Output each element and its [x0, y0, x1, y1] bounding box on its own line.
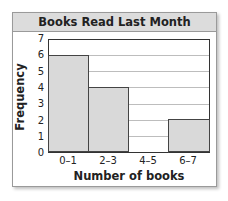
y-tick: 4	[32, 83, 44, 93]
y-tick: 0	[32, 148, 44, 158]
y-axis-label: Frequency	[13, 57, 27, 137]
y-tick: 6	[32, 50, 44, 60]
plot-area	[48, 39, 210, 153]
x-tick: 2–3	[88, 155, 128, 166]
bar-4-5-divider	[168, 120, 169, 153]
bar-6-7	[168, 119, 210, 152]
chart-title: Books Read Last Month	[13, 13, 216, 32]
y-tick: 5	[32, 67, 44, 77]
x-tick: 6–7	[168, 155, 208, 166]
x-axis-label: Number of books	[48, 169, 210, 183]
y-tick: 2	[32, 116, 44, 126]
y-tick: 3	[32, 99, 44, 109]
bar-0-1	[48, 55, 89, 152]
bar-2-3	[88, 87, 129, 152]
x-tick: 0–1	[48, 155, 88, 166]
y-tick: 1	[32, 132, 44, 142]
y-tick: 7	[32, 34, 44, 44]
x-tick: 4–5	[128, 155, 168, 166]
